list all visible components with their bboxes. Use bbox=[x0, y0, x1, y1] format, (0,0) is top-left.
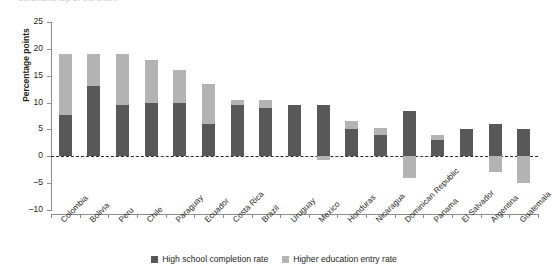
bar-segment-higher-education-entry bbox=[259, 100, 272, 108]
y-tick-label: 25 bbox=[34, 16, 43, 26]
bar-segment-higher-education-entry bbox=[431, 135, 444, 140]
x-tick-mark bbox=[166, 214, 167, 218]
chart-legend: High school completion rateHigher educat… bbox=[0, 254, 548, 264]
bar-group bbox=[202, 0, 215, 214]
bar-group bbox=[173, 0, 186, 214]
bar-segment-higher-education-entry bbox=[202, 84, 215, 124]
bar-segment-higher-education-entry bbox=[403, 156, 416, 177]
legend-item[interactable]: Higher education entry rate bbox=[282, 254, 397, 264]
legend-label: Higher education entry rate bbox=[293, 254, 397, 264]
bar-group bbox=[489, 0, 502, 214]
bar-group bbox=[231, 0, 244, 214]
bar-segment-higher-education-entry bbox=[59, 54, 72, 115]
bar-segment-higher-education-entry bbox=[145, 60, 158, 103]
bar-segment-higher-education-entry bbox=[517, 156, 530, 183]
bar-segment-high-school-completion bbox=[460, 129, 473, 156]
legend-swatch bbox=[282, 256, 289, 263]
bar-segment-high-school-completion bbox=[489, 124, 502, 156]
bar-segment-higher-education-entry bbox=[317, 156, 330, 160]
x-tick-mark bbox=[509, 214, 510, 218]
bar-segment-high-school-completion bbox=[59, 115, 72, 156]
bar-segment-high-school-completion bbox=[517, 129, 530, 156]
bar-segment-higher-education-entry bbox=[489, 156, 502, 172]
bar-group bbox=[317, 0, 330, 214]
bar-segment-high-school-completion bbox=[202, 124, 215, 156]
bar-segment-high-school-completion bbox=[173, 103, 186, 157]
x-tick-mark bbox=[538, 214, 539, 218]
y-tick-label: 15 bbox=[34, 70, 43, 80]
bar-group bbox=[259, 0, 272, 214]
y-tick-label: 20 bbox=[34, 43, 43, 53]
bar-segment-high-school-completion bbox=[345, 129, 358, 156]
bar-segment-higher-education-entry bbox=[116, 54, 129, 105]
bar-segment-high-school-completion bbox=[259, 108, 272, 156]
bar-group bbox=[345, 0, 358, 214]
bar-group bbox=[87, 0, 100, 214]
bar-segment-high-school-completion bbox=[431, 140, 444, 156]
y-axis-title: Percentage points bbox=[21, 5, 31, 125]
bar-group bbox=[116, 0, 129, 214]
bar-group bbox=[374, 0, 387, 214]
legend-item[interactable]: High school completion rate bbox=[151, 254, 268, 264]
x-tick-mark bbox=[108, 214, 109, 218]
y-tick-label: 5 bbox=[38, 123, 43, 133]
legend-label: High school completion rate bbox=[162, 254, 268, 264]
bar-segment-high-school-completion bbox=[288, 105, 301, 156]
bar-segment-higher-education-entry bbox=[345, 121, 358, 129]
bar-segment-high-school-completion bbox=[231, 105, 244, 156]
x-tick-mark bbox=[423, 214, 424, 218]
y-tick-label: –5 bbox=[34, 177, 43, 187]
bar-segment-high-school-completion bbox=[403, 111, 416, 157]
y-tick-label: 10 bbox=[34, 97, 43, 107]
bar-segment-higher-education-entry bbox=[87, 54, 100, 86]
bar-segment-high-school-completion bbox=[116, 105, 129, 156]
bar-segment-high-school-completion bbox=[374, 135, 387, 156]
x-tick-mark bbox=[395, 214, 396, 218]
x-tick-mark bbox=[452, 214, 453, 218]
bar-group bbox=[288, 0, 301, 214]
x-tick-mark bbox=[51, 214, 52, 218]
x-tick-mark bbox=[137, 214, 138, 218]
x-tick-mark bbox=[223, 214, 224, 218]
bar-segment-higher-education-entry bbox=[374, 128, 387, 134]
x-tick-mark bbox=[280, 214, 281, 218]
x-tick-mark bbox=[80, 214, 81, 218]
legend-swatch bbox=[151, 256, 158, 263]
bar-segment-higher-education-entry bbox=[231, 100, 244, 105]
bar-group bbox=[460, 0, 473, 214]
bar-group bbox=[517, 0, 530, 214]
x-tick-mark bbox=[481, 214, 482, 218]
x-tick-mark bbox=[337, 214, 338, 218]
bar-segment-high-school-completion bbox=[317, 105, 330, 156]
y-tick-label: –10 bbox=[29, 204, 43, 214]
bar-group bbox=[145, 0, 158, 214]
x-tick-mark bbox=[309, 214, 310, 218]
bar-segment-high-school-completion bbox=[87, 86, 100, 156]
bar-segment-higher-education-entry bbox=[173, 70, 186, 102]
bar-segment-high-school-completion bbox=[145, 103, 158, 157]
x-tick-mark bbox=[252, 214, 253, 218]
bar-series-group bbox=[51, 0, 538, 274]
x-tick-mark bbox=[194, 214, 195, 218]
x-tick-mark bbox=[366, 214, 367, 218]
bar-group bbox=[403, 0, 416, 214]
y-tick-label: 0 bbox=[38, 150, 43, 160]
bar-group bbox=[59, 0, 72, 214]
